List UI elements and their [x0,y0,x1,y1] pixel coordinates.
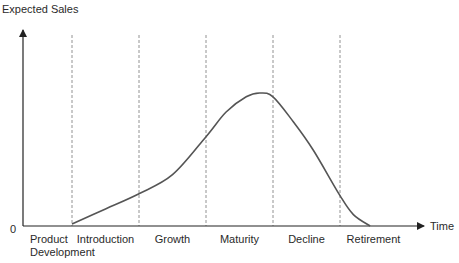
x-axis-label: Time [430,220,454,232]
stage-label-line: Development [30,246,95,258]
stage-label-line: Introduction [77,233,134,245]
stage-label-5: Decline [288,233,325,245]
stage-label-2: Introduction [77,233,134,245]
y-origin-label: 0 [10,223,16,235]
stage-label-line: Retirement [347,233,401,245]
stage-label-6: Retirement [347,233,401,245]
y-axis-label: Expected Sales [2,3,79,15]
sales-curve [72,93,370,226]
stage-label-line: Product [30,233,68,245]
stage-label-4: Maturity [220,233,260,245]
stage-label-line: Decline [288,233,325,245]
stage-label-line: Growth [155,233,190,245]
product-life-cycle-chart: Expected Sales Time 0 ProductDevelopment… [0,0,459,263]
stage-label-3: Growth [155,233,190,245]
stage-label-line: Maturity [220,233,260,245]
